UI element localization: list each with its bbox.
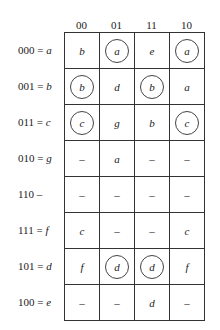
column-header: 11 bbox=[134, 18, 169, 32]
table-row: c––c bbox=[65, 213, 205, 249]
table-cell: – bbox=[170, 285, 205, 321]
row-state: c bbox=[46, 116, 51, 128]
row-equals: = bbox=[35, 152, 47, 164]
row-label: 111 = f bbox=[0, 212, 60, 248]
table-cell: d bbox=[135, 285, 170, 321]
next-state: – bbox=[176, 184, 198, 206]
next-state: c bbox=[71, 220, 93, 242]
table-cell: b bbox=[65, 69, 100, 105]
row-equals: = bbox=[35, 80, 47, 92]
row-state: b bbox=[46, 80, 52, 92]
table-cell: g bbox=[100, 105, 135, 141]
table-row: fddf bbox=[65, 249, 205, 285]
row-equals: = bbox=[35, 260, 47, 272]
table-cell: – bbox=[135, 213, 170, 249]
table-row: –a–– bbox=[65, 141, 205, 177]
table-cell: – bbox=[65, 177, 100, 213]
table-row: baea bbox=[65, 33, 205, 69]
next-state: c bbox=[176, 220, 198, 242]
row-code: 101 bbox=[18, 260, 35, 272]
row-code: 010 bbox=[18, 152, 35, 164]
next-state: d bbox=[141, 292, 163, 314]
row-code: 011 bbox=[18, 116, 34, 128]
table-cell: d bbox=[135, 249, 170, 285]
row-state: e bbox=[46, 296, 51, 308]
row-equals: = bbox=[34, 116, 46, 128]
row-label: 010 = g bbox=[0, 140, 60, 176]
next-state: a bbox=[176, 76, 198, 98]
state-transition-table: baeabdbacgbc–a––––––c––cfddf––d– bbox=[64, 32, 205, 321]
row-equals: – bbox=[34, 188, 42, 200]
table-cell: – bbox=[65, 285, 100, 321]
next-state: – bbox=[141, 220, 163, 242]
next-state: – bbox=[71, 148, 93, 170]
next-state: – bbox=[106, 220, 128, 242]
table-cell: b bbox=[65, 33, 100, 69]
circled-stable-state: c bbox=[70, 111, 94, 135]
table-cell: – bbox=[65, 141, 100, 177]
row-equals: = bbox=[35, 296, 47, 308]
table-cell: c bbox=[65, 105, 100, 141]
row-state: f bbox=[45, 224, 48, 236]
next-state: – bbox=[141, 148, 163, 170]
table-cell: a bbox=[170, 69, 205, 105]
table-cell: a bbox=[100, 33, 135, 69]
table-cell: b bbox=[135, 105, 170, 141]
column-header: 01 bbox=[99, 18, 134, 32]
row-state: a bbox=[46, 44, 52, 56]
next-state: a bbox=[106, 148, 128, 170]
circled-stable-state: a bbox=[105, 39, 129, 63]
table-row: –––– bbox=[65, 177, 205, 213]
circled-stable-state: b bbox=[140, 75, 164, 99]
table-cell: a bbox=[100, 141, 135, 177]
row-label: 000 = a bbox=[0, 32, 60, 68]
table-row: cgbc bbox=[65, 105, 205, 141]
row-label: 110 – bbox=[0, 176, 60, 212]
table-cell: – bbox=[100, 285, 135, 321]
table-cell: e bbox=[135, 33, 170, 69]
next-state: – bbox=[106, 184, 128, 206]
row-label: 100 = e bbox=[0, 284, 60, 320]
table-cell: c bbox=[170, 105, 205, 141]
table-cell: d bbox=[100, 249, 135, 285]
column-header: 10 bbox=[169, 18, 204, 32]
row-code: 001 bbox=[18, 80, 35, 92]
table-cell: – bbox=[135, 177, 170, 213]
table-row: ––d– bbox=[65, 285, 205, 321]
next-state: – bbox=[106, 292, 128, 314]
table-row: bdba bbox=[65, 69, 205, 105]
circled-stable-state: b bbox=[70, 75, 94, 99]
row-label: 001 = b bbox=[0, 68, 60, 104]
row-code: 110 bbox=[18, 188, 34, 200]
row-code: 111 bbox=[18, 224, 34, 236]
next-state: b bbox=[141, 112, 163, 134]
row-equals: = bbox=[35, 44, 47, 56]
column-headers: 00 01 11 10 bbox=[64, 18, 204, 32]
row-code: 000 bbox=[18, 44, 35, 56]
row-state: g bbox=[46, 152, 52, 164]
row-label: 101 = d bbox=[0, 248, 60, 284]
table-cell: c bbox=[65, 213, 100, 249]
next-state: – bbox=[71, 184, 93, 206]
column-header: 00 bbox=[64, 18, 99, 32]
next-state: – bbox=[141, 184, 163, 206]
row-labels: 000 = a001 = b011 = c010 = g110 –111 = f… bbox=[0, 32, 60, 320]
table-cell: – bbox=[170, 141, 205, 177]
circled-stable-state: d bbox=[140, 255, 164, 279]
table-cell: d bbox=[100, 69, 135, 105]
table-cell: – bbox=[170, 177, 205, 213]
next-state: – bbox=[71, 292, 93, 314]
table-cell: a bbox=[170, 33, 205, 69]
table-cell: f bbox=[170, 249, 205, 285]
next-state: – bbox=[176, 148, 198, 170]
row-code: 100 bbox=[18, 296, 35, 308]
row-equals: = bbox=[34, 224, 46, 236]
table-cell: – bbox=[100, 177, 135, 213]
next-state: f bbox=[176, 256, 198, 278]
table-cell: – bbox=[135, 141, 170, 177]
table-cell: – bbox=[100, 213, 135, 249]
next-state: b bbox=[71, 40, 93, 62]
circled-stable-state: c bbox=[175, 111, 199, 135]
next-state: f bbox=[71, 256, 93, 278]
row-state: d bbox=[46, 260, 52, 272]
